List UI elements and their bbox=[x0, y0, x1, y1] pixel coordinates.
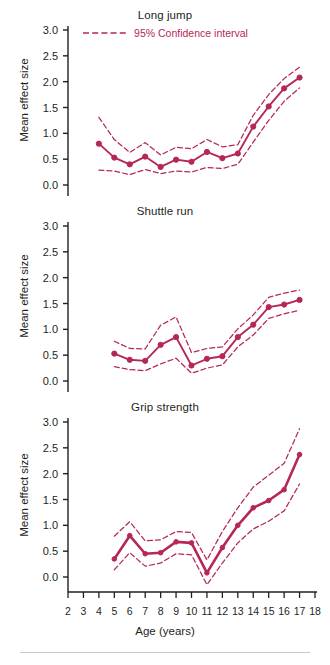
y-tick-label: 3.0 bbox=[32, 416, 58, 428]
x-tick-label: 11 bbox=[201, 605, 212, 617]
y-tick-label: 2.5 bbox=[32, 50, 58, 62]
y-tick-label: 0.0 bbox=[32, 179, 58, 191]
legend-dash-icon bbox=[82, 29, 128, 37]
y-axis-label-wrap: Mean effect size bbox=[18, 196, 32, 396]
x-tick-label: 12 bbox=[217, 605, 229, 617]
x-tick-label: 6 bbox=[127, 605, 133, 617]
y-tick-label: 1.0 bbox=[32, 323, 58, 335]
x-tick-label: 7 bbox=[142, 605, 148, 617]
x-axis-ticks bbox=[0, 592, 330, 606]
figure-container: Long jump 95% Confidence interval Mean e… bbox=[0, 0, 330, 665]
y-tick-label: 1.0 bbox=[32, 519, 58, 531]
x-tick-label: 8 bbox=[158, 605, 164, 617]
y-tick-label: 0.0 bbox=[32, 571, 58, 583]
x-tick-label: 18 bbox=[309, 605, 321, 617]
y-axis-label: Mean effect size bbox=[18, 254, 30, 338]
x-axis-label: Age (years) bbox=[0, 625, 330, 637]
x-tick-label: 2 bbox=[65, 605, 71, 617]
x-axis-block: Age (years) 23456789101112131415161718 bbox=[0, 592, 330, 665]
legend-label: 95% Confidence interval bbox=[134, 27, 248, 39]
x-tick-label: 15 bbox=[263, 605, 275, 617]
x-tick-label: 4 bbox=[96, 605, 102, 617]
x-tick-label: 13 bbox=[232, 605, 244, 617]
y-tick-label: 1.5 bbox=[32, 494, 58, 506]
y-axis-label-wrap: Mean effect size bbox=[18, 0, 32, 200]
y-tick-label: 2.5 bbox=[32, 246, 58, 258]
y-tick-label: 2.0 bbox=[32, 76, 58, 88]
panel-title: Long jump bbox=[0, 9, 330, 21]
x-tick-label: 3 bbox=[81, 605, 87, 617]
y-axis-label: Mean effect size bbox=[18, 58, 30, 142]
chart-panel-long-jump: Long jump 95% Confidence interval Mean e… bbox=[0, 0, 330, 200]
y-tick-label: 2.5 bbox=[32, 442, 58, 454]
y-axis-label: Mean effect size bbox=[18, 453, 30, 537]
chart-panel-grip-strength: Grip strength Mean effect size 0.00.51.0… bbox=[0, 392, 330, 597]
y-tick-label: 1.5 bbox=[32, 298, 58, 310]
y-tick-label: 1.5 bbox=[32, 102, 58, 114]
x-tick-label: 14 bbox=[247, 605, 259, 617]
y-tick-label: 0.5 bbox=[32, 153, 58, 165]
y-tick-label: 3.0 bbox=[32, 24, 58, 36]
chart-panel-shuttle-run: Shuttle run Mean effect size 0.00.51.01.… bbox=[0, 196, 330, 396]
y-tick-label: 2.0 bbox=[32, 468, 58, 480]
y-tick-label: 0.5 bbox=[32, 349, 58, 361]
y-tick-label: 1.0 bbox=[32, 127, 58, 139]
y-tick-label: 0.0 bbox=[32, 375, 58, 387]
y-axis-label-wrap: Mean effect size bbox=[18, 392, 32, 597]
x-tick-label: 17 bbox=[294, 605, 306, 617]
y-tick-label: 0.5 bbox=[32, 545, 58, 557]
y-tick-label: 3.0 bbox=[32, 220, 58, 232]
x-tick-label: 9 bbox=[173, 605, 179, 617]
panel-title: Grip strength bbox=[0, 401, 330, 413]
footer-divider bbox=[20, 652, 310, 653]
x-tick-label: 10 bbox=[186, 605, 198, 617]
x-tick-label: 5 bbox=[111, 605, 117, 617]
y-tick-label: 2.0 bbox=[32, 272, 58, 284]
panel-title: Shuttle run bbox=[0, 205, 330, 217]
x-tick-label: 16 bbox=[278, 605, 290, 617]
